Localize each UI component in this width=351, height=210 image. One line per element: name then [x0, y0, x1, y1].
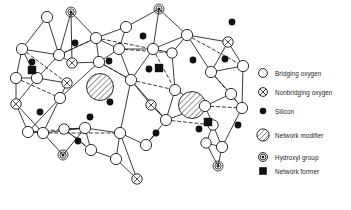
- crossed-circle-icon: [256, 85, 270, 99]
- legend-label-hydroxyl-group: Hydroxyl group: [275, 154, 318, 161]
- open-circle-icon: [256, 66, 270, 80]
- legend: Bridging oxygen Nonbridging oxygen Silic…: [256, 66, 351, 170]
- legend-item-network-modifier: Network modifier: [256, 128, 324, 142]
- legend-item-hydroxyl-group: Hydroxyl group: [256, 150, 318, 164]
- filled-circle-icon: [256, 104, 270, 118]
- legend-label-bridging-oxygen: Bridging oxygen: [275, 70, 321, 77]
- legend-item-network-former: Network former: [256, 164, 319, 178]
- legend-item-nonbridging-oxygen: Nonbridging oxygen: [256, 85, 332, 99]
- network-bonds-dashed: [16, 35, 243, 150]
- filled-square-icon: [256, 164, 270, 178]
- legend-label-nonbridging-oxygen: Nonbridging oxygen: [275, 89, 332, 96]
- legend-label-network-former: Network former: [275, 168, 319, 175]
- legend-label-silicon: Silicon: [275, 108, 294, 115]
- concentric-circle-icon: [256, 150, 270, 164]
- legend-item-bridging-oxygen: Bridging oxygen: [256, 66, 321, 80]
- glass-network-figure: Bridging oxygen Nonbridging oxygen Silic…: [0, 0, 351, 210]
- legend-label-network-modifier: Network modifier: [275, 132, 324, 139]
- network-bonds: [16, 9, 243, 179]
- network-modifier-nodes: [87, 74, 206, 119]
- hatched-circle-icon: [256, 128, 270, 142]
- legend-item-silicon: Silicon: [256, 104, 294, 118]
